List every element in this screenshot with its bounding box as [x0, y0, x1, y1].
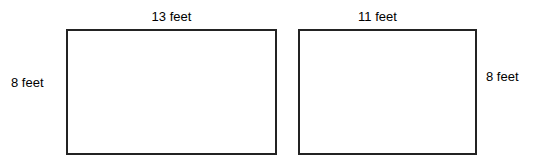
diagram-canvas: 13 feet 8 feet 11 feet 8 feet	[0, 0, 536, 167]
left-rectangle-height-label: 8 feet	[11, 75, 44, 90]
right-rectangle-height-label: 8 feet	[486, 69, 519, 84]
left-rectangle-width-label: 13 feet	[66, 9, 277, 24]
left-rectangle	[66, 29, 277, 155]
right-rectangle	[298, 29, 477, 155]
right-rectangle-width-label: 11 feet	[288, 9, 467, 24]
